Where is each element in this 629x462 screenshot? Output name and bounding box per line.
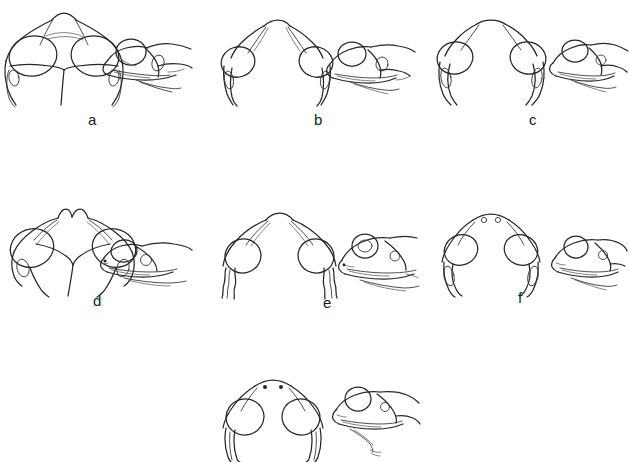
panel-b: b [210,8,420,108]
panel-c-drawings [425,8,629,108]
lateral-head-g [333,387,420,456]
lateral-head-c [550,40,628,92]
panel-f: f [425,198,629,298]
panel-d: d [0,198,200,298]
dorsal-head-e [221,213,338,299]
dorsal-head-d [5,209,141,297]
panel-label-e: e [323,295,331,310]
panel-g-drawings [210,372,420,462]
panel-a: a [0,8,200,108]
panel-label-a: a [88,112,96,127]
panel-b-drawings [210,8,420,108]
panel-label-c: c [529,112,537,127]
lateral-head-d [100,238,192,286]
lateral-head-f [552,236,627,290]
panel-e: e [210,198,420,303]
dorsal-head-g [223,380,324,462]
panel-label-b: b [314,112,322,127]
panel-a-drawings [0,8,200,108]
panel-label-f: f [518,290,522,305]
panel-g [210,372,420,462]
panel-d-drawings [0,198,200,298]
panel-e-drawings [210,198,420,303]
panel-f-drawings [425,198,629,298]
dorsal-head-f [440,214,543,297]
dorsal-head-c [433,20,549,105]
lateral-head-e [339,234,419,291]
dorsal-head-b [217,20,337,106]
dorsal-head-a [5,13,123,107]
panel-c: c [425,8,629,108]
panel-label-d: d [93,293,101,308]
lateral-head-b [327,42,415,94]
